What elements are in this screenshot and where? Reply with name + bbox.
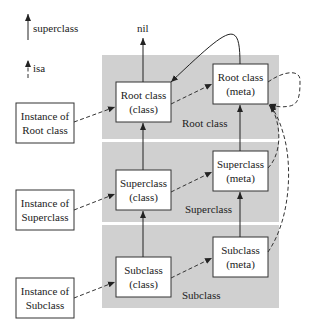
- svg-text:Superclass: Superclass: [120, 177, 167, 189]
- panel-root-class-label: Root class: [182, 117, 228, 129]
- svg-text:Subclass: Subclass: [26, 299, 65, 311]
- svg-text:(meta): (meta): [226, 85, 255, 98]
- superclass-instance-box: Instance of Superclass: [16, 190, 74, 230]
- svg-text:Instance of: Instance of: [21, 197, 70, 209]
- svg-text:Subclass: Subclass: [124, 264, 163, 276]
- superclass-class-box: Superclass (class): [116, 170, 171, 210]
- svg-text:Instance of: Instance of: [21, 110, 70, 122]
- svg-text:Superclass: Superclass: [217, 158, 264, 170]
- subclass-meta-box: Subclass (meta): [213, 237, 268, 277]
- svg-text:Root class: Root class: [121, 89, 167, 101]
- svg-text:Subclass: Subclass: [221, 244, 260, 256]
- legend-isa-label: isa: [33, 62, 45, 74]
- superclass-meta-box: Superclass (meta): [213, 151, 268, 191]
- svg-text:(class): (class): [129, 278, 158, 291]
- class-hierarchy-diagram: superclass isa Root class Superclass Sub…: [0, 0, 313, 330]
- root-meta-box: Root class (meta): [213, 64, 268, 104]
- legend-superclass-label: superclass: [33, 22, 78, 34]
- svg-text:(class): (class): [129, 191, 158, 204]
- nil-label: nil: [137, 22, 149, 34]
- svg-text:Instance of: Instance of: [21, 285, 70, 297]
- svg-text:(class): (class): [129, 103, 158, 116]
- svg-text:Superclass: Superclass: [21, 211, 68, 223]
- root-instance-box: Instance of Root class: [16, 103, 74, 143]
- svg-text:(meta): (meta): [226, 258, 255, 271]
- subclass-class-box: Subclass (class): [116, 257, 171, 297]
- root-class-box: Root class (class): [116, 82, 171, 122]
- svg-text:(meta): (meta): [226, 172, 255, 185]
- svg-text:Root class: Root class: [22, 124, 68, 136]
- panel-subclass-label: Subclass: [182, 289, 221, 301]
- legend: superclass isa: [28, 14, 78, 78]
- svg-text:Root class: Root class: [218, 71, 264, 83]
- panel-superclass-label: Superclass: [185, 203, 232, 215]
- subclass-instance-box: Instance of Subclass: [16, 278, 74, 318]
